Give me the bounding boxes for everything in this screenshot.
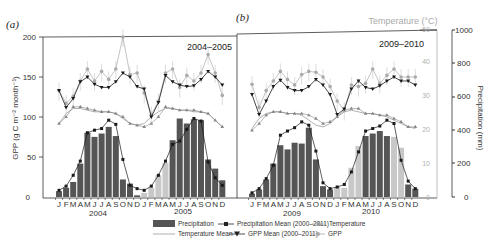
- month-label: A: [163, 200, 169, 209]
- temp-tick: 20: [422, 126, 430, 133]
- precip-bar: [306, 128, 312, 197]
- year-label-2005: 2005: [174, 207, 192, 216]
- month-label: A: [191, 200, 197, 209]
- temperature-axis-label: Temperature (°C): [368, 16, 437, 26]
- temp-tick: 50: [422, 26, 430, 33]
- month-label: J: [335, 200, 339, 209]
- precip-bar: [285, 149, 291, 197]
- precip-bar: [120, 179, 126, 197]
- precip-bar: [377, 131, 383, 197]
- month-label: J: [100, 200, 104, 209]
- month-label: N: [320, 200, 326, 209]
- precip-bar: [92, 137, 98, 197]
- gpp-precipitation-temperature-chart: (a) (b) 0 50 100 150 200 GPP (g C m⁻² mo…: [0, 0, 486, 244]
- temp-tick: 30: [422, 92, 430, 99]
- precip-bar: [106, 127, 112, 197]
- precip-bar: [56, 191, 62, 197]
- precip-bar: [299, 144, 305, 197]
- precip-bar: [370, 134, 376, 197]
- month-label: M: [277, 200, 284, 209]
- temp-tick: 10: [422, 160, 430, 167]
- precip-bar: [391, 137, 397, 197]
- month-label: J: [250, 200, 254, 209]
- precip-bar: [99, 134, 105, 197]
- month-label: F: [342, 200, 347, 209]
- month-label: D: [327, 200, 333, 209]
- precip-bar: [134, 195, 140, 197]
- month-label: M: [70, 200, 77, 209]
- month-label: J: [57, 200, 61, 209]
- precip-tick: 1000: [455, 26, 473, 35]
- month-label: N: [405, 200, 411, 209]
- month-label: M: [348, 200, 355, 209]
- month-label: S: [113, 200, 118, 209]
- precip-tick: 800: [457, 59, 471, 68]
- month-label: M: [155, 200, 162, 209]
- gpp-tick-100: 100: [23, 113, 37, 122]
- year-label-2004: 2004: [89, 209, 107, 218]
- month-label: D: [219, 200, 225, 209]
- month-label: A: [78, 200, 84, 209]
- precip-tick: 0: [464, 193, 469, 202]
- precip-bar: [184, 124, 190, 197]
- precip-bar: [334, 187, 340, 197]
- year-label-2009: 2009: [283, 209, 301, 218]
- month-label: A: [271, 200, 277, 209]
- precip-bar: [363, 136, 369, 197]
- precip-bar: [141, 193, 147, 197]
- legend-temperature: Temperature: [329, 220, 366, 228]
- legend-precip-swatch: [153, 220, 175, 227]
- precip-bar: [77, 164, 83, 197]
- month-label: D: [412, 200, 418, 209]
- month-label: O: [398, 200, 404, 209]
- gpp-tick-50: 50: [27, 153, 36, 162]
- month-label: D: [134, 200, 140, 209]
- month-label: N: [212, 200, 218, 209]
- precip-bar: [177, 119, 183, 197]
- precip-bar: [398, 148, 404, 197]
- precip-bar: [256, 189, 262, 197]
- gpp-axis: 0 50 100 150 200 GPP (g C m⁻² month⁻¹): [11, 33, 43, 202]
- precip-bar: [148, 188, 154, 197]
- month-label: N: [127, 200, 133, 209]
- precip-bar: [63, 188, 69, 197]
- month-label: J: [293, 200, 297, 209]
- month-label: J: [93, 200, 97, 209]
- gpp-axis-label: GPP (g C m⁻² month⁻¹): [11, 76, 20, 160]
- month-label: O: [205, 200, 211, 209]
- period-label-a: 2004–2005: [187, 42, 232, 52]
- precip-bar: [384, 136, 390, 197]
- panel-a-series: [56, 29, 225, 197]
- month-label: A: [356, 200, 362, 209]
- month-label: J: [142, 200, 146, 209]
- precip-bar: [356, 146, 362, 197]
- panel-b-series: [249, 61, 418, 197]
- month-label: S: [391, 200, 396, 209]
- panel-label-b: (b): [236, 11, 249, 24]
- precipitation-axis: 0 200 400 600 800 1000 Precipitation (mm…: [452, 26, 485, 202]
- month-label: J: [286, 200, 290, 209]
- precip-bar: [313, 159, 319, 197]
- precip-bar: [320, 186, 326, 197]
- precip-tick: 200: [457, 159, 471, 168]
- precip-bar: [113, 136, 119, 197]
- temp-tick: 40: [422, 58, 430, 65]
- month-label: A: [106, 200, 112, 209]
- precip-bar: [292, 143, 298, 197]
- precipitation-axis-label: Precipitation (mm): [476, 86, 485, 151]
- precip-tick: 400: [457, 126, 471, 135]
- legend: Precipitation Precipitation Mean (2000–2…: [153, 220, 366, 238]
- year-label-2010: 2010: [362, 207, 380, 216]
- legend-precipitation: Precipitation: [178, 220, 214, 228]
- month-label: A: [384, 200, 390, 209]
- month-label: A: [299, 200, 305, 209]
- precip-bar: [70, 182, 76, 197]
- month-label: O: [313, 200, 319, 209]
- legend-gpp-mean: GPP Mean (2000–2011): [248, 230, 318, 238]
- month-label: O: [120, 200, 126, 209]
- legend-gpp: GPP: [328, 230, 342, 237]
- precip-tick: 600: [457, 92, 471, 101]
- precip-bar: [191, 119, 197, 197]
- month-label: S: [198, 200, 203, 209]
- gpp-tick-0: 0: [26, 193, 31, 202]
